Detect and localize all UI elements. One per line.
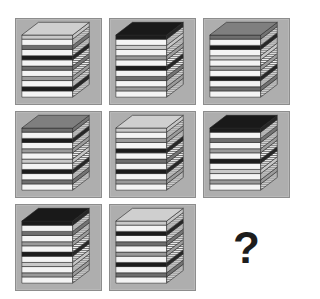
matrix-cell-row2-col3[interactable] (203, 111, 290, 198)
book-stack-row2-col1 (16, 112, 101, 197)
book-stack-row1-col2 (110, 19, 195, 104)
book-stack-row3-col2 (110, 205, 195, 290)
book-stack-row1-col3 (204, 19, 289, 104)
matrix-cell-row1-col2[interactable] (109, 18, 196, 105)
matrix-cell-row1-col3[interactable] (203, 18, 290, 105)
book-stack-row2-col3 (204, 112, 289, 197)
matrix-cell-row3-col1[interactable] (15, 204, 102, 291)
matrix-cell-row2-col2[interactable] (109, 111, 196, 198)
matrix-cell-row2-col1[interactable] (15, 111, 102, 198)
matrix-cell-row1-col1[interactable] (15, 18, 102, 105)
book-stack-row1-col1 (16, 19, 101, 104)
book-stack-row2-col2 (110, 112, 195, 197)
puzzle-matrix-grid: ? (15, 18, 291, 289)
matrix-cell-row3-col2[interactable] (109, 204, 196, 291)
book-stack-row3-col1 (16, 205, 101, 290)
matrix-cell-row3-col3[interactable]: ? (203, 204, 290, 291)
question-mark-placeholder: ? (203, 204, 290, 291)
